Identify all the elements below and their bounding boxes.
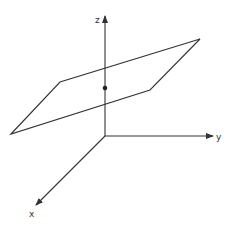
y-axis-label: y <box>216 132 222 142</box>
intersection-point <box>103 86 108 91</box>
3d-plane-diagram: z y x <box>0 0 226 225</box>
z-axis-label: z <box>95 15 100 25</box>
x-axis-label: x <box>29 209 35 219</box>
x-axis <box>36 136 105 205</box>
